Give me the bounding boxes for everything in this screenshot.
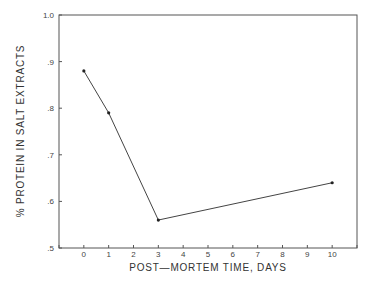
x-tick-label: 6 [231, 250, 236, 259]
x-tick-label: 3 [156, 250, 161, 259]
x-tick-label: 8 [280, 250, 285, 259]
y-tick-label: .8 [47, 104, 54, 113]
y-tick-label: .7 [47, 151, 54, 160]
y-tick-label: 1.0 [43, 11, 55, 20]
data-line [84, 71, 332, 220]
y-tick-label: .5 [47, 244, 54, 253]
x-tick-label: 1 [106, 250, 111, 259]
data-point-marker [331, 181, 334, 184]
x-tick-label: 7 [255, 250, 260, 259]
y-axis-label: % PROTEIN IN SALT EXTRACTS [15, 45, 26, 218]
x-tick-label: 0 [82, 250, 87, 259]
y-tick-label: .6 [47, 197, 54, 206]
x-axis-label: POST—MORTEM TIME, DAYS [129, 262, 287, 273]
data-point-marker [157, 218, 160, 221]
data-point-marker [82, 69, 85, 72]
x-tick-label: 9 [305, 250, 310, 259]
line-chart: .5.6.7.8.91.0 012345678910 POST—MORTEM T… [0, 0, 375, 284]
x-tick-label: 4 [181, 250, 186, 259]
x-tick-label: 5 [206, 250, 211, 259]
y-tick-label: .9 [47, 58, 54, 67]
x-axis-ticks: 012345678910 [59, 245, 357, 259]
x-tick-label: 2 [131, 250, 136, 259]
data-point-marker [107, 111, 110, 114]
plot-frame [59, 15, 357, 248]
x-tick-label: 10 [328, 250, 337, 259]
data-points [82, 69, 334, 221]
